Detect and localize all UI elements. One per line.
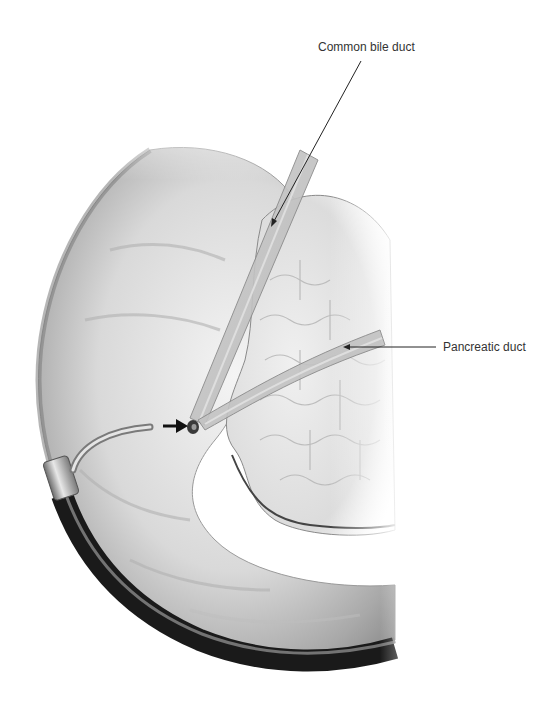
illustration: Common bile duct Pancreatic duct [0,0,548,706]
papilla [187,420,199,434]
label-common-bile-duct: Common bile duct [318,40,415,54]
label-pancreatic-duct: Pancreatic duct [443,340,526,354]
